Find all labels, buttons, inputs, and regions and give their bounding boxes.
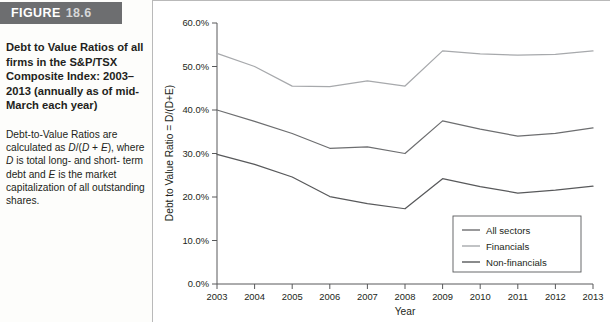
legend-label-non-financials: Non-financials <box>486 257 547 268</box>
series-line-all-sectors <box>217 110 593 154</box>
x-tick-label: 2008 <box>395 291 416 302</box>
line-chart: 0.0%10.0%20.0%30.0%40.0%50.0%60.0% 20032… <box>1 1 610 322</box>
series-line-financials <box>217 51 593 87</box>
x-axis-title: Year <box>395 306 416 317</box>
y-tick-label: 30.0% <box>182 148 209 159</box>
y-tick-label: 10.0% <box>182 235 209 246</box>
x-tick-label: 2006 <box>319 291 340 302</box>
legend-label-all-sectors: All sectors <box>486 225 530 236</box>
x-tick-label: 2004 <box>244 291 265 302</box>
x-axis-ticks: 2003200420052006200720082009201020112012… <box>207 284 604 302</box>
y-tick-label: 40.0% <box>182 104 209 115</box>
y-axis-ticks: 0.0%10.0%20.0%30.0%40.0%50.0%60.0% <box>182 17 217 289</box>
x-tick-label: 2005 <box>282 291 303 302</box>
y-tick-label: 60.0% <box>182 17 209 28</box>
series-lines <box>217 51 593 209</box>
series-line-non-financials <box>217 154 593 208</box>
x-tick-label: 2010 <box>470 291 491 302</box>
y-tick-label: 20.0% <box>182 191 209 202</box>
x-tick-label: 2011 <box>508 291 528 302</box>
x-tick-label: 2009 <box>432 291 453 302</box>
chart-svg-wrapper: 0.0%10.0%20.0%30.0%40.0%50.0%60.0% 20032… <box>1 1 610 322</box>
x-tick-label: 2013 <box>583 291 604 302</box>
chart-legend: All sectorsFinancialsNon-financials <box>453 216 581 272</box>
figure-page: FIGURE 18.6 Debt to Value Ratios of all … <box>0 0 610 322</box>
x-tick-label: 2003 <box>207 291 228 302</box>
y-axis-title: Debt to Value Ratio = D/(D+E) <box>164 85 175 221</box>
x-tick-label: 2007 <box>357 291 378 302</box>
chart-panel: 0.0%10.0%20.0%30.0%40.0%50.0%60.0% 20032… <box>152 0 610 322</box>
x-tick-label: 2012 <box>545 291 566 302</box>
y-tick-label: 0.0% <box>188 278 209 289</box>
legend-label-financials: Financials <box>486 241 529 252</box>
y-tick-label: 50.0% <box>182 61 209 72</box>
